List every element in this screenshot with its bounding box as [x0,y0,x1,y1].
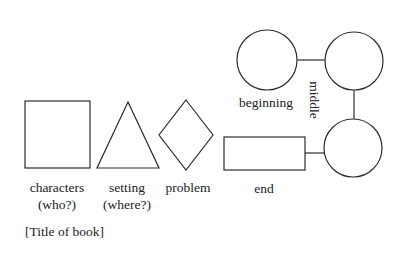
middle-circle [325,32,383,90]
setting-label: setting [109,180,145,195]
beginning-label: beginning [239,95,293,110]
setting-triangle [97,102,159,168]
characters-sublabel: (who?) [38,197,76,212]
characters-label: characters [30,180,85,195]
problem-diamond [159,100,213,170]
middle-label: middle [307,81,322,119]
end-rectangle [224,137,305,170]
problem-label: problem [166,180,211,195]
setting-sublabel: (where?) [103,197,151,212]
characters-square [25,101,90,168]
end-circle [324,119,382,177]
story-map-diagram: characters (who?) setting (where?) probl… [0,0,409,265]
end-label: end [254,181,274,196]
book-title-label: [Title of book] [25,224,104,239]
beginning-circle [237,30,297,90]
